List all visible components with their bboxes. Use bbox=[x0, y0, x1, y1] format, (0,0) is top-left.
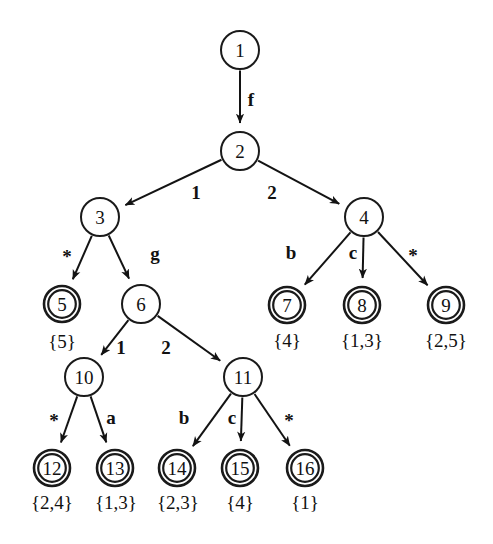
tree-edge bbox=[378, 232, 428, 285]
tree-node[interactable]: 15 bbox=[222, 450, 258, 486]
node-label: 3 bbox=[95, 207, 105, 228]
node-label: 9 bbox=[441, 295, 451, 316]
node-set-label: {5} bbox=[48, 331, 76, 352]
node-set-label: {1,3} bbox=[95, 492, 137, 513]
node-label: 16 bbox=[296, 458, 315, 479]
tree-node[interactable]: 14 bbox=[159, 450, 195, 486]
tree-node[interactable]: 9 bbox=[428, 287, 464, 323]
node-set-label: {2,3} bbox=[157, 492, 199, 513]
edge-label: * bbox=[408, 245, 418, 266]
node-set-label: {1,3} bbox=[341, 330, 383, 351]
node-label: 8 bbox=[357, 295, 367, 316]
node-set-label: {4} bbox=[273, 330, 301, 351]
edge-label: b bbox=[179, 407, 190, 428]
node-set-label: {4} bbox=[226, 492, 254, 513]
tree-edge bbox=[73, 236, 92, 279]
tree-node[interactable]: 11 bbox=[224, 358, 262, 396]
edge-label: * bbox=[49, 410, 59, 431]
node-label: 1 bbox=[235, 40, 245, 61]
edge-label: * bbox=[284, 410, 294, 431]
edge-label: 2 bbox=[267, 182, 277, 203]
node-set-label: {2,4} bbox=[31, 492, 73, 513]
node-set-label: {1} bbox=[291, 492, 319, 513]
tree-edge bbox=[109, 236, 129, 279]
tree-node[interactable]: 2 bbox=[221, 132, 259, 170]
edge-label: 1 bbox=[191, 182, 201, 203]
tree-edge bbox=[241, 397, 242, 441]
node-label: 7 bbox=[282, 295, 292, 316]
node-label: 11 bbox=[234, 367, 252, 388]
edge-label: f bbox=[248, 89, 255, 110]
node-label: 14 bbox=[168, 458, 188, 479]
node-label: 4 bbox=[359, 207, 369, 228]
node-label: 6 bbox=[136, 294, 146, 315]
tree-edge bbox=[193, 394, 231, 447]
tree-node[interactable]: 5 bbox=[44, 286, 80, 322]
edge-label: 1 bbox=[116, 337, 126, 358]
tree-node[interactable]: 7 bbox=[269, 287, 305, 323]
tree-edge bbox=[363, 237, 364, 278]
tree-edge bbox=[305, 232, 351, 284]
node-label: 2 bbox=[235, 141, 245, 162]
edge-label: * bbox=[62, 246, 72, 267]
tree-diagram-canvas: f12*gbc*12*abc* 12345678910111213141516 … bbox=[0, 0, 493, 544]
tree-diagram-svg: f12*gbc*12*abc* 12345678910111213141516 … bbox=[0, 0, 493, 544]
node-label: 12 bbox=[43, 458, 62, 479]
tree-edge bbox=[61, 396, 77, 442]
tree-node[interactable]: 8 bbox=[344, 287, 380, 323]
tree-node[interactable]: 12 bbox=[34, 450, 70, 486]
edge-label: b bbox=[286, 242, 297, 263]
tree-node[interactable]: 4 bbox=[345, 198, 383, 236]
tree-edge bbox=[91, 396, 107, 442]
edge-label: g bbox=[150, 243, 160, 264]
tree-node[interactable]: 13 bbox=[97, 450, 133, 486]
node-label: 10 bbox=[75, 367, 94, 388]
node-set-label: {2,5} bbox=[425, 330, 467, 351]
tree-node[interactable]: 3 bbox=[81, 198, 119, 236]
edge-label: c bbox=[228, 407, 236, 428]
tree-node[interactable]: 1 bbox=[221, 31, 259, 69]
tree-node[interactable]: 16 bbox=[287, 450, 323, 486]
edge-label: a bbox=[106, 407, 116, 428]
node-label: 15 bbox=[231, 458, 250, 479]
edge-label: 2 bbox=[161, 337, 171, 358]
edge-label: c bbox=[349, 242, 357, 263]
tree-node[interactable]: 6 bbox=[122, 285, 160, 323]
tree-edge bbox=[125, 160, 221, 205]
node-label: 13 bbox=[106, 458, 125, 479]
tree-node[interactable]: 10 bbox=[65, 358, 103, 396]
node-label: 5 bbox=[57, 294, 67, 315]
